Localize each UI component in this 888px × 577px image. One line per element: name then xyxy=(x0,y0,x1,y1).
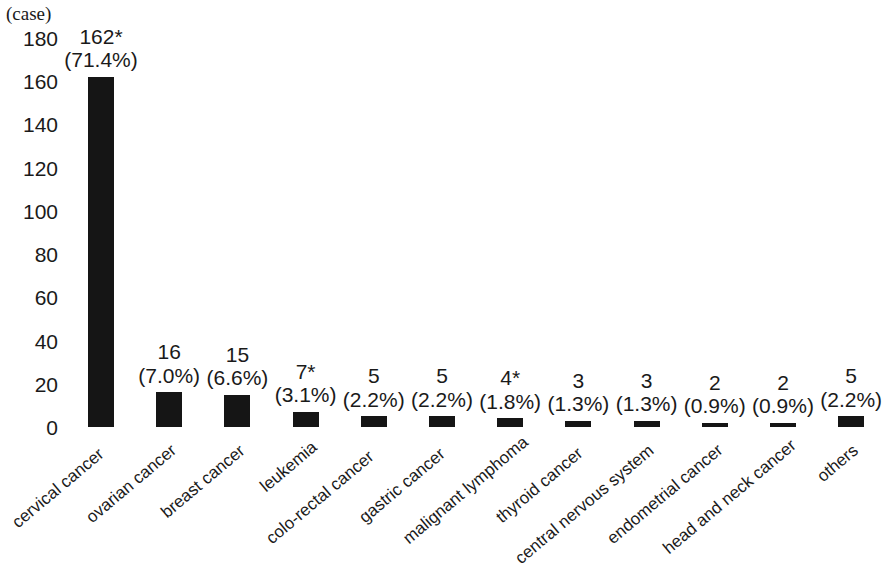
x-axis-category-label: leukemia xyxy=(257,438,320,495)
x-axis-category-label: endometrial cancer xyxy=(604,441,726,547)
x-axis-category-labels: cervical cancerovarian cancerbreast canc… xyxy=(0,0,888,577)
bar-chart: (case) 020406080100120140160180 162*(71.… xyxy=(0,0,888,577)
x-axis-category-label: malignant lymphoma xyxy=(400,433,531,547)
x-axis-category-label: others xyxy=(814,441,861,484)
x-axis-category-label: head and neck cancer xyxy=(660,436,799,557)
x-axis-category-label: central nervous system xyxy=(512,442,657,567)
